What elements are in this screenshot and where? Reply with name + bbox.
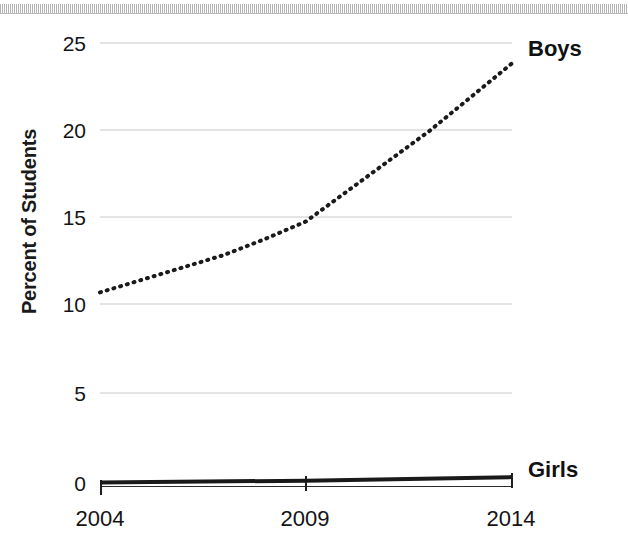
chart-figure: Percent of Students 25 20 15 10 5 0 2004…	[0, 0, 628, 553]
series-line-boys	[100, 63, 512, 292]
series-label-boys: Boys	[528, 36, 582, 62]
series-line-girls	[100, 477, 512, 482]
series-label-girls: Girls	[528, 457, 578, 483]
